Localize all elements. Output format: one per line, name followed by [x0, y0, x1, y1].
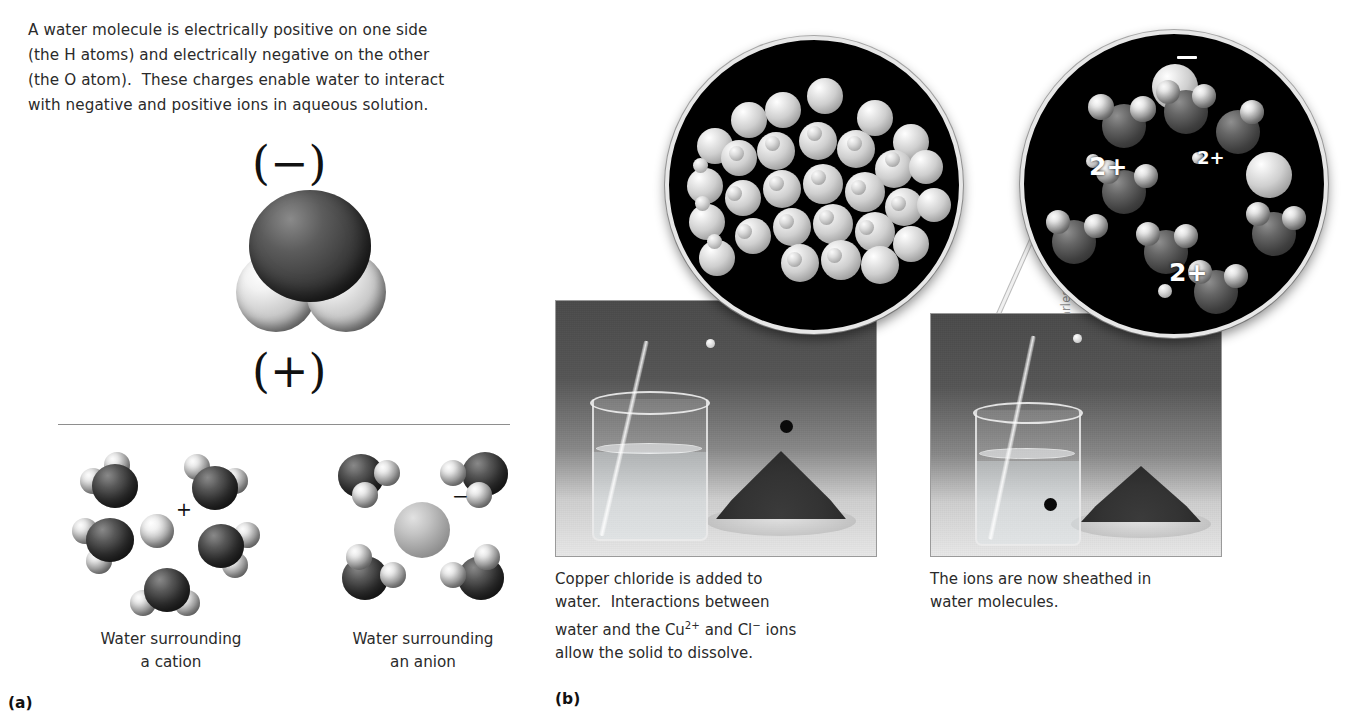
chloride-sphere	[821, 240, 861, 280]
copper-sphere	[779, 214, 794, 229]
copper-sphere	[787, 252, 802, 267]
water-surface	[979, 448, 1075, 459]
water-molecule-space-filling-model	[236, 190, 386, 340]
chloride-sphere	[765, 92, 801, 128]
chloride-sphere	[773, 208, 811, 246]
cation-caption-line-2: a cation	[48, 651, 294, 674]
hydrogen-atom	[352, 482, 378, 508]
water-molecule	[130, 568, 204, 624]
copper-sphere	[707, 234, 722, 249]
intro-line-4: with negative and positive ions in aqueo…	[28, 93, 458, 118]
negative-charge-marker	[1314, 256, 1327, 258]
copper-sphere	[819, 210, 834, 225]
inset-charge-labels: 2+2+2+	[1024, 34, 1324, 334]
section-divider	[58, 424, 510, 425]
cation-caption: Water surrounding a cation	[48, 628, 294, 674]
hydrogen-atom	[474, 544, 500, 570]
copper-sphere	[885, 152, 900, 167]
cation-hydration-cluster: +	[72, 452, 272, 612]
lattice-assembly	[669, 40, 959, 330]
copper-sphere	[693, 158, 708, 173]
chloride-sphere	[845, 172, 885, 212]
chloride-sphere	[813, 204, 853, 244]
cation-charge-sign: +	[176, 500, 192, 519]
copper-sphere	[807, 126, 822, 141]
water-molecule	[338, 454, 410, 512]
chloride-sphere	[731, 102, 767, 138]
panel-a-water-and-ions: A water molecule is electrically positiv…	[0, 0, 525, 722]
photo-copper-chloride-before	[555, 300, 877, 557]
anion-caption: Water surrounding an anion	[300, 628, 546, 674]
oxygen-atom	[249, 190, 371, 302]
water-surface	[596, 443, 702, 454]
water-molecule	[72, 514, 142, 576]
water-molecule	[182, 452, 252, 512]
intro-line-3: (the O atom). These charges enable water…	[28, 68, 458, 93]
oxygen-atom	[192, 466, 238, 510]
chloride-sphere	[909, 150, 943, 184]
left-caption-line-4: allow the solid to dissolve.	[555, 642, 885, 665]
intro-line-1: A water molecule is electrically positiv…	[28, 18, 458, 43]
copper-sphere	[859, 220, 874, 235]
chloride-sphere	[893, 226, 929, 262]
stirring-rod-tip	[1073, 334, 1082, 343]
right-caption-line-2: water molecules.	[930, 591, 1250, 614]
anion-hydration-cluster: −	[328, 452, 518, 612]
cation-caption-line-1: Water surrounding	[48, 628, 294, 651]
water-molecule	[338, 544, 410, 602]
caption-text-pre: water and the Cu	[555, 621, 685, 639]
hydrogen-atom	[466, 482, 492, 508]
intro-paragraph: A water molecule is electrically positiv…	[28, 18, 458, 118]
right-caption-line-1: The ions are now sheathed in	[930, 568, 1250, 591]
inset-hydrated-ions: 2+2+2+	[1020, 30, 1328, 338]
left-photo-caption: Copper chloride is added to water. Inter…	[555, 568, 885, 665]
beaker-rim	[973, 402, 1083, 424]
left-caption-ion-line: water and the Cu2+ and Cl− ions	[555, 614, 885, 642]
anion-caption-line-2: an anion	[300, 651, 546, 674]
positive-charge-label: 2+	[1169, 260, 1207, 285]
hydrogen-atom	[374, 460, 400, 486]
chloride-sphere	[763, 170, 801, 208]
water-molecule	[440, 544, 512, 602]
hydrogen-atom	[440, 460, 466, 486]
water-molecule	[80, 452, 146, 512]
chloride-sphere	[917, 188, 951, 222]
chloride-sphere	[861, 246, 899, 284]
stirring-rod-tip	[706, 339, 715, 348]
caption-text-mid: and Cl	[700, 621, 752, 639]
copper-sphere	[737, 224, 752, 239]
photo-copper-chloride-dissolved	[930, 313, 1222, 557]
panel-b-label: (b)	[555, 690, 580, 708]
copper-sphere	[891, 196, 906, 211]
right-photo-caption: The ions are now sheathed in water molec…	[930, 568, 1250, 614]
copper-sphere	[695, 196, 710, 211]
copper-sphere	[811, 170, 826, 185]
left-caption-line-1: Copper chloride is added to	[555, 568, 885, 591]
hydrogen-atom	[440, 562, 466, 588]
water-molecule	[440, 452, 512, 510]
positive-charge-label: 2+	[1197, 149, 1225, 167]
inset-crystal-lattice	[665, 36, 963, 334]
anion-sphere	[394, 502, 450, 558]
panel-a-label: (a)	[8, 694, 33, 712]
cu-charge-superscript: 2+	[685, 620, 700, 631]
leader-anchor-powder	[780, 420, 793, 433]
water-molecule	[194, 518, 264, 580]
copper-sphere	[827, 248, 842, 263]
oxygen-atom	[86, 518, 134, 562]
panel-b-dissolution-photos: Photos: Charles D. Winters	[525, 0, 1350, 722]
chloride-sphere	[803, 164, 843, 204]
left-caption-line-2: water. Interactions between	[555, 591, 885, 614]
intro-line-2: (the H atoms) and electrically negative …	[28, 43, 458, 68]
hydrogen-atom	[380, 562, 406, 588]
chloride-sphere	[807, 78, 843, 114]
copper-sphere	[851, 180, 866, 195]
caption-text-post: ions	[761, 621, 796, 639]
anion-caption-line-1: Water surrounding	[300, 628, 546, 651]
copper-sphere	[727, 186, 742, 201]
beaker-rim	[590, 391, 710, 415]
hydrogen-atom	[346, 544, 372, 570]
cl-charge-superscript: −	[752, 620, 761, 631]
positive-charge-label: 2+	[1089, 154, 1127, 179]
oxygen-atom	[92, 464, 138, 508]
